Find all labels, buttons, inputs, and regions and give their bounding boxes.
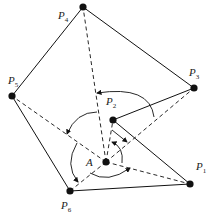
label-P4: P4 <box>57 9 69 24</box>
edge-P1-P6 <box>70 184 190 191</box>
radial-P5 <box>12 96 106 162</box>
arc-p5-to-p6 <box>71 143 78 182</box>
arc-p4-to-p5 <box>67 112 97 134</box>
vertices <box>8 3 197 194</box>
center-point <box>102 158 109 165</box>
label-P1: P1 <box>195 160 207 175</box>
radial-P4 <box>83 7 106 162</box>
vertex-P4 <box>79 3 86 10</box>
vertex-P1 <box>186 180 193 187</box>
edge-P2-P1 <box>113 120 190 184</box>
arc-p2-to-p3 <box>112 130 127 142</box>
arc-p6-to-p1 <box>90 168 130 177</box>
vertex-labels: P1P2P3P4P5P6A <box>7 9 207 214</box>
vertex-P3 <box>190 84 197 91</box>
edge-P5-P4 <box>12 7 83 96</box>
edge-P6-P5 <box>12 96 70 191</box>
radial-P2 <box>106 120 113 162</box>
label-P3: P3 <box>188 66 200 81</box>
vertex-P5 <box>8 92 15 99</box>
label-P2: P2 <box>105 95 117 110</box>
vertex-P2 <box>109 116 116 123</box>
label-P6: P6 <box>60 199 72 214</box>
label-P5: P5 <box>7 74 19 89</box>
polygon-diagram: P1P2P3P4P5P6A <box>0 0 211 215</box>
vertex-P6 <box>66 187 73 194</box>
edge-P4-P3 <box>83 7 194 88</box>
label-center-A: A <box>85 156 93 168</box>
